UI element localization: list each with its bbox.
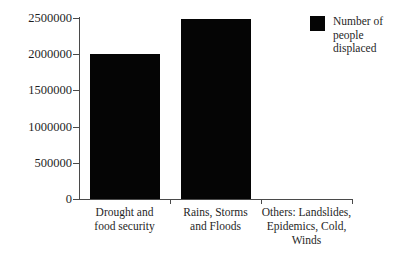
- legend: Number of peopledisplaced: [310, 15, 413, 56]
- y-axis-labels: 05000001000000150000020000002500000: [0, 0, 72, 258]
- y-axis-tick: [73, 18, 79, 19]
- legend-label-number-of-people-displaced: Number of peopledisplaced: [333, 15, 413, 56]
- category-label-line: Others: Landslides,: [253, 205, 360, 219]
- bar-chart-figure: 05000001000000150000020000002500000 Drou…: [0, 0, 418, 258]
- y-axis-tick: [73, 127, 79, 128]
- y-axis-tick: [73, 54, 79, 55]
- bar-1: [181, 19, 251, 199]
- x-axis-tick: [261, 199, 262, 204]
- x-axis-line: [79, 199, 353, 200]
- y-axis-tick-label: 0: [66, 193, 72, 206]
- x-axis-tick-end: [352, 199, 353, 204]
- category-label-line: Winds: [253, 233, 360, 247]
- legend-label-line: displaced: [333, 42, 413, 56]
- y-axis-tick-label: 1000000: [28, 121, 72, 134]
- y-axis-tick: [73, 163, 79, 164]
- y-axis-tick: [73, 199, 79, 200]
- y-axis-tick-label: 2500000: [28, 12, 72, 25]
- y-axis-tick-label: 2000000: [28, 48, 72, 61]
- x-axis-tick: [170, 199, 171, 204]
- category-label-line: Epidemics, Cold,: [253, 219, 360, 233]
- x-axis-category-label-2: Others: Landslides,Epidemics, Cold,Winds: [253, 205, 360, 247]
- legend-label-line: Number of people: [333, 15, 413, 42]
- y-axis-tick-label: 1500000: [28, 84, 72, 97]
- legend-swatch-number-of-people-displaced: [310, 16, 325, 31]
- y-axis-tick-label: 500000: [35, 157, 73, 170]
- bar-0: [90, 54, 160, 199]
- y-axis-tick: [73, 90, 79, 91]
